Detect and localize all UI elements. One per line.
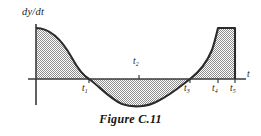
tick-label-t5: t5	[230, 84, 236, 94]
tick-label-t3-sub: 3	[187, 88, 190, 94]
tick-label-t2-sub: 2	[136, 61, 139, 67]
tick-label-t4: t4	[212, 84, 218, 94]
tick-label-t4-sub: 4	[215, 88, 218, 94]
x-axis-label: t	[247, 70, 250, 80]
tick-label-t1: t1	[82, 84, 88, 94]
tick-label-t1-sub: 1	[85, 88, 88, 94]
figure-caption: Figure C.11	[0, 112, 261, 127]
area-fill-second-positive	[190, 28, 235, 79]
y-axis-label: dy/dt	[22, 7, 44, 18]
figure-container: dy/dt t t1 t2 t3 t4 t5 Figure C.11	[0, 0, 261, 136]
tick-label-t2: t2	[133, 57, 139, 67]
tick-label-t5-sub: 5	[233, 88, 236, 94]
area-fill-group	[36, 28, 235, 106]
tick-label-t3: t3	[184, 84, 190, 94]
